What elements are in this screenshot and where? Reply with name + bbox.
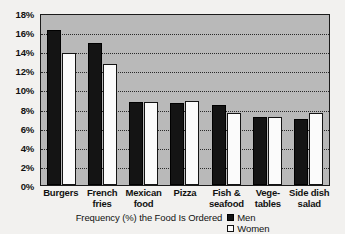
bar-women xyxy=(185,101,199,185)
bar-women xyxy=(62,53,76,185)
y-axis-tick-label: 14% xyxy=(16,47,34,58)
bar-group xyxy=(247,15,288,185)
legend-swatch-women xyxy=(227,225,234,232)
legend-swatch-men xyxy=(227,214,234,221)
legend-item: Women xyxy=(227,223,269,234)
legend-label: Women xyxy=(237,223,269,234)
y-axis-tick-label: 2% xyxy=(21,161,34,172)
bar-chart: 18%16%14%12%10%8%6%4%2%0% BurgersFrenchf… xyxy=(0,0,345,234)
bar-men xyxy=(253,117,267,185)
y-axis-tick-label: 4% xyxy=(21,142,34,153)
bar-men xyxy=(212,105,226,185)
bar-men xyxy=(47,30,61,185)
legend-label: Men xyxy=(237,212,255,223)
bar-men xyxy=(170,103,184,185)
bar-group xyxy=(82,15,123,185)
bar-group xyxy=(123,15,164,185)
y-axis: 18%16%14%12%10%8%6%4%2%0% xyxy=(0,0,38,186)
bar-men xyxy=(129,102,143,185)
y-axis-tick-label: 6% xyxy=(21,123,34,134)
plot-area xyxy=(40,14,330,186)
bar-women xyxy=(103,64,117,185)
caption-and-legend: Frequency (%) the Food Is Ordered MenWom… xyxy=(0,212,345,234)
legend: MenWomen xyxy=(227,212,269,234)
bar-group xyxy=(164,15,205,185)
y-axis-tick-label: 8% xyxy=(21,104,34,115)
bar-men xyxy=(294,119,308,185)
bar-women xyxy=(309,113,323,185)
legend-item: Men xyxy=(227,212,269,223)
bar-group xyxy=(288,15,329,185)
y-axis-tick-label: 12% xyxy=(16,66,34,77)
bar-group xyxy=(206,15,247,185)
y-axis-tick-label: 18% xyxy=(16,9,34,20)
bars-layer xyxy=(41,15,329,185)
bar-women xyxy=(268,117,282,185)
bar-women xyxy=(227,113,241,185)
y-axis-tick-label: 10% xyxy=(16,85,34,96)
y-axis-tick-label: 0% xyxy=(21,181,34,192)
bar-men xyxy=(88,43,102,185)
bar-group xyxy=(41,15,82,185)
y-axis-tick-label: 16% xyxy=(16,28,34,39)
x-axis-caption: Frequency (%) the Food Is Ordered xyxy=(76,212,223,223)
bar-women xyxy=(144,102,158,185)
